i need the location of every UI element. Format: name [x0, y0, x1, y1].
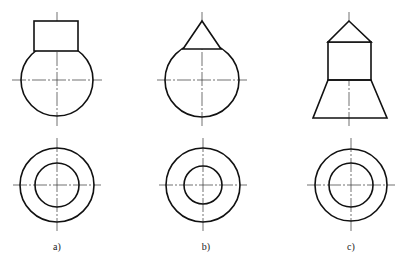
cone-outline: [183, 21, 221, 49]
frustum-outline: [313, 80, 387, 118]
cone-outline: [328, 21, 371, 42]
drawing-canvas: a) b) c): [0, 0, 407, 266]
cylinder-outline: [328, 42, 371, 80]
cylinder-outline: [34, 21, 78, 51]
technical-drawing: [0, 0, 407, 266]
panel-label-b: b): [202, 241, 210, 252]
panel-label-c: c): [347, 241, 355, 252]
panel-label-a: a): [53, 241, 61, 252]
